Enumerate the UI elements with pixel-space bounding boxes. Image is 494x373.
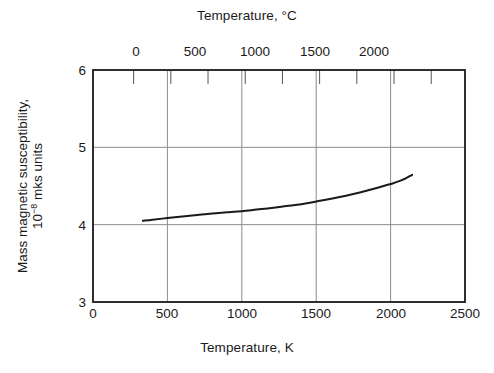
plot-frame [93, 70, 465, 302]
gridlines [93, 70, 465, 302]
data-series-line [143, 175, 412, 221]
plot-area [0, 0, 494, 373]
secondary-x-axis-ticks [134, 70, 432, 84]
chart-figure: Temperature, °C 0 500 1000 1500 2000 0 5… [0, 0, 494, 373]
